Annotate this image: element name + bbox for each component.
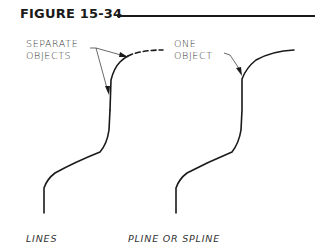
line-segment-bottom bbox=[44, 110, 110, 213]
caption-pline-or-spline: PLINE OR SPLINE bbox=[128, 233, 220, 244]
polyline-object bbox=[176, 50, 294, 213]
leader-line-lower bbox=[96, 48, 108, 92]
line-segment-dashed bbox=[128, 50, 163, 56]
caption-lines: LINES bbox=[26, 233, 57, 244]
one-object-drawing bbox=[176, 50, 294, 213]
leader-arrowhead-upper bbox=[119, 52, 128, 57]
leader-arrowhead-one-object bbox=[236, 67, 242, 76]
leader-line-one-object bbox=[224, 53, 240, 70]
leader-arrowhead-lower bbox=[105, 86, 110, 95]
one-object-leader bbox=[224, 53, 240, 70]
line-segment-vertical bbox=[110, 56, 128, 110]
drawing-canvas bbox=[0, 0, 328, 251]
